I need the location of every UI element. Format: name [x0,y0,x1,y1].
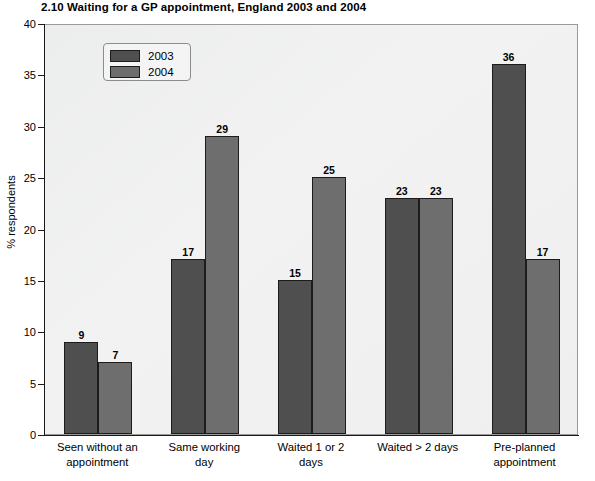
legend-row-2004: 2004 [110,65,174,79]
x-axis-category-label-4: Pre-plannedappointment [471,440,578,469]
y-axis-tick-15 [38,281,45,282]
bar-2004-2 [312,177,346,434]
legend-row-2003: 2003 [110,49,174,63]
bar-value-label-2004-2: 25 [312,164,346,176]
y-axis-title: % respondents [5,152,17,272]
bar-2003-3 [385,198,419,434]
bar-value-label-2003-0: 9 [64,329,98,341]
legend-swatch-2004 [110,66,140,78]
bar-value-label-2004-4: 17 [526,246,560,258]
bar-2003-2 [278,280,312,434]
y-axis-tick-label-40: 40 [2,18,36,30]
bar-2004-4 [526,259,560,434]
x-axis-category-label-line: appointment [44,455,151,470]
y-axis-tick-label-0: 0 [2,429,36,441]
bar-2004-3 [419,198,453,434]
y-axis-tick-25 [38,178,45,179]
bar-2003-0 [64,342,98,434]
x-axis-category-label-line: Same working [151,440,258,455]
x-axis-category-label-line: appointment [471,455,578,470]
y-axis-tick-label-35: 35 [2,69,36,81]
bar-2004-1 [205,136,239,434]
x-axis-category-label-0: Seen without anappointment [44,440,151,469]
bar-2003-1 [171,259,205,434]
x-axis-category-label-2: Waited 1 or 2days [258,440,365,469]
bar-2004-0 [98,362,132,434]
legend-label-2004: 2004 [148,66,174,78]
y-axis-tick-label-10: 10 [2,326,36,338]
x-axis-category-label-3: Waited > 2 days [364,440,471,455]
x-axis-category-label-1: Same workingday [151,440,258,469]
x-axis-category-label-line: days [258,455,365,470]
y-axis-tick-30 [38,127,45,128]
x-axis-category-label-line: Waited > 2 days [364,440,471,455]
x-axis-line [44,435,579,436]
y-axis-tick-5 [38,384,45,385]
x-axis-category-label-line: day [151,455,258,470]
bar-value-label-2004-0: 7 [98,349,132,361]
bar-value-label-2004-1: 29 [205,123,239,135]
bar-value-label-2003-1: 17 [171,246,205,258]
x-axis-category-label-line: Pre-planned [471,440,578,455]
y-axis-tick-35 [38,75,45,76]
y-axis-tick-label-15: 15 [2,275,36,287]
x-axis-category-label-line: Seen without an [44,440,151,455]
bar-value-label-2004-3: 23 [419,185,453,197]
y-axis-tick-0 [38,435,45,436]
bar-value-label-2003-3: 23 [385,185,419,197]
bar-2003-4 [492,64,526,434]
chart-legend: 2003 2004 [103,43,191,81]
bar-value-label-2003-2: 15 [278,267,312,279]
legend-label-2003: 2003 [148,50,174,62]
chart-title: 2.10 Waiting for a GP appointment, Engla… [41,1,366,13]
bar-value-label-2003-4: 36 [492,51,526,63]
x-axis-category-label-line: Waited 1 or 2 [258,440,365,455]
y-axis-tick-20 [38,230,45,231]
y-axis-tick-label-5: 5 [2,378,36,390]
y-axis-tick-label-30: 30 [2,121,36,133]
plot-area: 971729152523233617 [44,24,578,435]
y-axis-tick-40 [38,24,45,25]
legend-swatch-2003 [110,50,140,62]
y-axis-tick-10 [38,332,45,333]
